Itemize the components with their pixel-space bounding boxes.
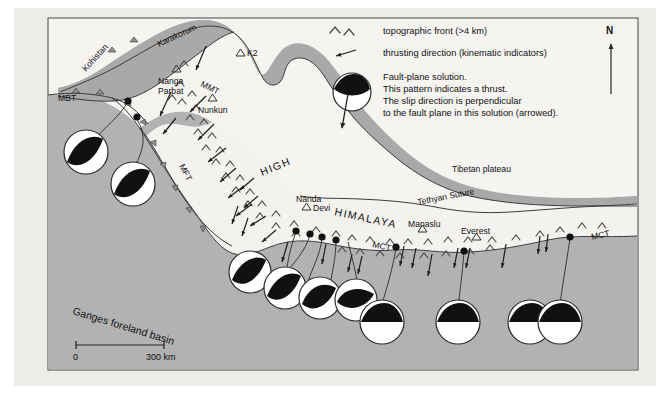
scale-label-start: 0 [73,352,78,362]
label-everest: Everest [461,226,491,236]
north-label: N [606,25,613,36]
tectonic-map-svg: Kohistan Karakorum K2 Nanga Parbat MMT M… [0,0,670,394]
legend-beachball-line-4: to the fault plane in this solution (arr… [383,108,558,118]
label-nanga-parbat-line2: Parbat [158,86,184,96]
label-manaslu: Manaslu [408,219,441,229]
legend-label-topographic-front: topographic front (>4 km) [383,26,487,36]
focal-mechanism-beachball [111,162,155,206]
focal-mechanism-beachball [360,300,404,344]
focal-mechanism-beachball [64,130,108,174]
legend-beachball-line-3: The slip direction is perpendicular [383,96,522,106]
legend-beachball-line-1: Fault-plane solution. [383,72,467,82]
focal-mechanism-beachball [538,300,582,344]
label-mbt: MBT [58,93,77,103]
label-k2: K2 [247,48,258,58]
legend-beachball-line-2: This pattern indicates a thrust. [383,84,508,94]
label-nanga-parbat-line1: Nanga [158,76,184,86]
focal-mechanism-beachball [436,300,480,344]
figure-root: Kohistan Karakorum K2 Nanga Parbat MMT M… [0,0,670,394]
label-nunkun: Nunkun [198,105,228,115]
label-tibetan-plateau: Tibetan plateau [452,164,511,174]
scale-label-end: 300 km [146,352,176,362]
legend-label-thrusting-direction: thrusting direction (kinematic indicator… [383,48,547,58]
label-nanda-devi-line2: Devi [313,203,330,213]
